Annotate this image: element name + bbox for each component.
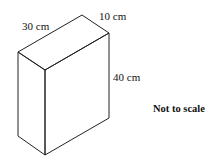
height-label: 40 cm	[113, 72, 140, 83]
length-label: 30 cm	[22, 21, 49, 32]
cuboid-side-face	[18, 52, 45, 155]
cuboid-front-face	[45, 33, 109, 155]
not-to-scale-note: Not to scale	[153, 104, 205, 115]
depth-label: 10 cm	[99, 11, 126, 22]
